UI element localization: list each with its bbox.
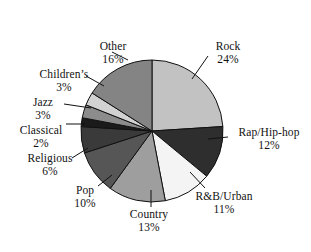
slice-label-children: Children’s 3%: [26, 68, 102, 93]
slice-label-other-text: Other: [82, 40, 144, 53]
slice-label-classical: Classical 2%: [8, 124, 74, 149]
slice-label-religious: Religious 6%: [18, 152, 82, 177]
slice-label-classical-text: Classical: [8, 124, 74, 137]
slice-label-jazz-value: 3%: [16, 109, 70, 122]
slice-label-rock-value: 24%: [206, 53, 250, 66]
pie-slice-group: [81, 60, 223, 202]
slice-label-rap: Rap/Hip-hop 12%: [228, 126, 310, 151]
slice-label-classical-value: 2%: [8, 137, 74, 150]
slice-label-pop-value: 10%: [64, 197, 106, 210]
slice-label-rock: Rock 24%: [206, 40, 250, 65]
slice-label-other-value: 16%: [82, 53, 144, 66]
slice-label-children-value: 3%: [26, 81, 102, 94]
slice-label-country-text: Country: [119, 208, 179, 221]
slice-label-rnb-value: 11%: [186, 203, 262, 216]
slice-label-jazz-text: Jazz: [16, 96, 70, 109]
slice-label-pop-text: Pop: [64, 184, 106, 197]
slice-label-religious-value: 6%: [18, 165, 82, 178]
slice-label-rap-value: 12%: [228, 139, 310, 152]
slice-label-rock-text: Rock: [206, 40, 250, 53]
slice-label-other: Other 16%: [82, 40, 144, 65]
pie-slice-rock: [152, 60, 223, 131]
slice-label-country-value: 13%: [119, 221, 179, 234]
slice-label-children-text: Children’s: [26, 68, 102, 81]
slice-label-country: Country 13%: [119, 208, 179, 233]
slice-label-religious-text: Religious: [18, 152, 82, 165]
slice-label-jazz: Jazz 3%: [16, 96, 70, 121]
slice-label-pop: Pop 10%: [64, 184, 106, 209]
pie-chart-figure: Other 16% Children’s 3% Jazz 3% Classica…: [0, 0, 311, 252]
slice-label-rap-text: Rap/Hip-hop: [228, 126, 310, 139]
slice-label-rnb: R&B/Urban 11%: [186, 190, 262, 215]
slice-label-rnb-text: R&B/Urban: [186, 190, 262, 203]
